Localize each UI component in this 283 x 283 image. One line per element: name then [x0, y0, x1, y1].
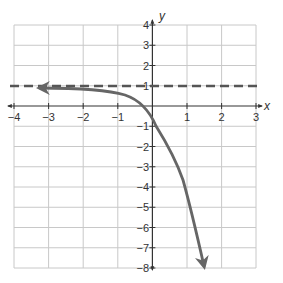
y-tick-label: 3 — [143, 39, 149, 51]
y-tick-label: −1 — [136, 120, 149, 132]
x-tick-label: −4 — [8, 111, 21, 123]
x-axis-label: x — [263, 99, 271, 113]
x-tick-label: 3 — [253, 111, 259, 123]
y-tick-label: −8 — [136, 262, 149, 274]
y-tick-label: −3 — [136, 161, 149, 173]
y-tick-label: −7 — [136, 242, 149, 254]
y-tick-labels: 4 3 2 1 −1 −2 −3 −4 −5 −6 −7 −8 — [136, 19, 149, 274]
graph: −4 −3 −2 −1 1 2 3 4 3 2 1 −1 −2 −3 −4 −5… — [0, 0, 283, 283]
x-tick-label: −2 — [77, 111, 90, 123]
grid — [14, 25, 256, 268]
y-tick-label: −6 — [136, 222, 149, 234]
x-tick-labels: −4 −3 −2 −1 1 2 3 — [8, 111, 259, 123]
y-tick-label: −4 — [136, 181, 149, 193]
x-tick-label: 1 — [184, 111, 190, 123]
y-tick-label: −2 — [136, 141, 149, 153]
y-tick-label: 4 — [143, 19, 149, 31]
x-tick-label: 2 — [219, 111, 225, 123]
y-tick-label: 2 — [143, 60, 149, 72]
x-tick-label: −3 — [42, 111, 55, 123]
x-tick-label: −1 — [112, 111, 125, 123]
y-tick-label: −5 — [136, 201, 149, 213]
y-axis-label: y — [158, 9, 166, 23]
axes — [8, 20, 262, 270]
